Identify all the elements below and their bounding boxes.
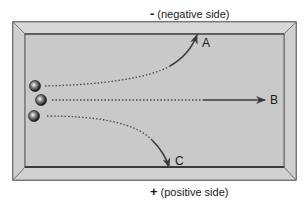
particle-icon bbox=[36, 95, 47, 106]
particle-icon bbox=[30, 81, 41, 92]
field-frame bbox=[13, 22, 296, 180]
positive-side-label: +(positive side) bbox=[150, 184, 228, 199]
deflection-diagram: A B C bbox=[0, 0, 307, 205]
label-a: A bbox=[202, 36, 210, 50]
particle-icon bbox=[29, 111, 40, 122]
label-b: B bbox=[270, 93, 278, 107]
label-c: C bbox=[175, 154, 184, 168]
positive-sign: + bbox=[150, 184, 158, 199]
positive-side-text: (positive side) bbox=[161, 186, 229, 198]
